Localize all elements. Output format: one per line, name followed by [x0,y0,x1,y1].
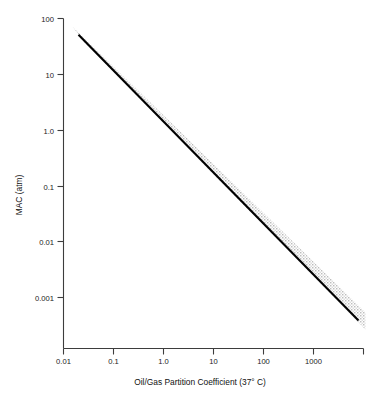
x-axis-title: Oil/Gas Partition Coefficient (37° C) [134,377,266,387]
y-tick-label-0.001: 0.001 [35,294,54,303]
y-tick-label-0.01: 0.01 [39,238,54,247]
y-tick-label-10: 10 [46,71,54,80]
y-tick-label-100: 100 [41,15,54,24]
y-tick-label-1: 1.0 [43,127,54,136]
x-tick-label-0.01: 0.01 [56,357,71,366]
y-tick-label-0.1: 0.1 [43,183,54,192]
chart-figure: 100 10 1.0 0.1 0.01 0.001 MAC (atm) 0.01… [0,0,389,400]
chart-background [0,0,389,400]
x-tick-label-1000: 1000 [305,357,322,366]
x-tick-label-100: 100 [257,357,270,366]
y-axis-title: MAC (atm) [14,175,24,216]
x-tick-label-0.1: 0.1 [108,357,119,366]
chart-svg: 100 10 1.0 0.1 0.01 0.001 MAC (atm) 0.01… [0,0,389,400]
x-tick-label-1: 1.0 [158,357,169,366]
x-tick-label-10: 10 [209,357,217,366]
